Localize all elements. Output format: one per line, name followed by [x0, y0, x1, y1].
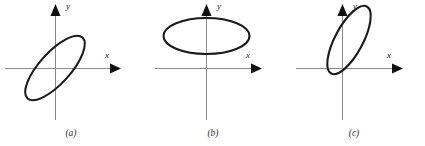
y-axis-arrowhead: [202, 4, 212, 16]
y-axis-label-a: y: [66, 2, 70, 11]
x-axis-arrowhead: [392, 64, 403, 74]
panel-caption-b: (b): [142, 129, 284, 139]
y-axis-arrowhead: [338, 4, 348, 16]
x-axis-arrowhead: [251, 64, 262, 74]
ellipse-orientation-figure: y x (a) y x (b) y x: [0, 0, 425, 146]
y-axis-arrowhead: [51, 4, 61, 16]
y-axis-label-b: y: [217, 2, 221, 11]
x-axis-label-a: x: [105, 51, 109, 60]
x-axis-arrowhead: [110, 64, 121, 74]
panel-caption-a: (a): [0, 129, 142, 139]
panel-b-plot: [142, 0, 284, 146]
panel-a-plot: [0, 0, 142, 146]
panel-c-plot: [283, 0, 425, 146]
panel-c: y x (c): [283, 0, 425, 146]
panel-a: y x (a): [0, 0, 142, 146]
panel-caption-c: (c): [283, 129, 425, 139]
x-axis-label-b: x: [246, 51, 250, 60]
panel-b: y x (b): [142, 0, 284, 146]
x-axis-label-c: x: [387, 51, 391, 60]
y-axis-label-c: y: [353, 2, 357, 11]
